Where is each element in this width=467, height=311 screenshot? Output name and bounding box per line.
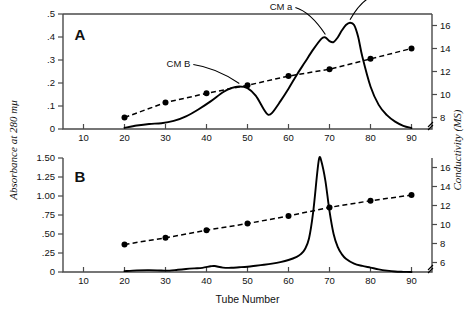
right-tick-label: 14 xyxy=(440,43,451,54)
right-axis-title: Conductivity (MS) xyxy=(451,109,464,190)
conductivity-marker xyxy=(122,241,128,247)
x-tick-label: 50 xyxy=(242,132,253,143)
conductivity-marker xyxy=(368,56,374,62)
x-axis-title: Tube Number xyxy=(216,293,280,305)
chromatography-figure: 0.1.2.3.4.5810121416102030405060708090AC… xyxy=(0,0,467,311)
conductivity-marker xyxy=(204,227,210,233)
x-tick-label: 40 xyxy=(201,275,212,286)
conductivity-marker xyxy=(286,213,292,219)
x-tick-label: 90 xyxy=(406,132,417,143)
x-tick-label: 80 xyxy=(365,275,376,286)
panel-letter: B xyxy=(75,168,86,185)
conductivity-marker xyxy=(163,235,169,241)
annotation-leader xyxy=(193,65,239,84)
conductivity-marker xyxy=(368,198,374,204)
left-tick-label: .3 xyxy=(47,54,55,65)
right-tick-label: 16 xyxy=(440,162,451,173)
annotation-leader xyxy=(350,0,372,20)
left-tick-label: .50 xyxy=(42,228,55,239)
left-tick-label: 1.50 xyxy=(37,152,56,163)
left-tick-label: 0 xyxy=(50,123,55,134)
panel-frame xyxy=(63,158,432,272)
x-tick-label: 70 xyxy=(324,132,335,143)
elution-profile-chart: 0.1.2.3.4.5810121416102030405060708090AC… xyxy=(0,0,467,311)
x-tick-label: 20 xyxy=(119,275,130,286)
conductivity-marker xyxy=(327,204,333,210)
x-tick-label: 90 xyxy=(406,275,417,286)
panel-letter: A xyxy=(75,26,86,43)
conductivity-marker xyxy=(409,192,415,198)
left-axis-title: Absorbance at 280 mμ xyxy=(7,100,19,201)
right-tick-label: 8 xyxy=(440,238,445,249)
conductivity-marker xyxy=(409,46,415,52)
x-tick-label: 80 xyxy=(365,132,376,143)
x-tick-label: 20 xyxy=(119,132,130,143)
conductivity-marker xyxy=(245,221,251,227)
right-tick-label: 12 xyxy=(440,200,451,211)
panel-frame xyxy=(63,14,432,129)
left-tick-label: .5 xyxy=(47,8,55,19)
right-tick-label: 10 xyxy=(440,219,451,230)
conductivity-marker xyxy=(286,73,292,79)
left-tick-label: .2 xyxy=(47,77,55,88)
x-tick-label: 60 xyxy=(283,132,294,143)
peak-label: CM a′ xyxy=(375,0,400,2)
x-tick-label: 30 xyxy=(160,275,171,286)
left-tick-label: 1.25 xyxy=(37,171,56,182)
left-tick-label: .75 xyxy=(42,209,55,220)
annotation-leader xyxy=(295,8,325,35)
conductivity-marker xyxy=(122,115,128,121)
panel-b: 0.25.50.751.001.251.50681012141610203040… xyxy=(37,152,451,286)
conductivity-marker xyxy=(327,66,333,72)
left-tick-label: 1.00 xyxy=(37,190,56,201)
x-tick-label: 70 xyxy=(324,275,335,286)
x-tick-label: 10 xyxy=(78,275,89,286)
right-tick-label: 16 xyxy=(440,20,451,31)
conductivity-marker xyxy=(204,90,210,96)
absorbance-curve xyxy=(125,157,412,272)
right-tick-label: 8 xyxy=(440,112,445,123)
right-tick-label: 14 xyxy=(440,181,451,192)
peak-label: CM a xyxy=(270,1,293,12)
x-tick-label: 40 xyxy=(201,132,212,143)
panel-a: 0.1.2.3.4.5810121416102030405060708090AC… xyxy=(47,0,451,143)
left-tick-label: 0 xyxy=(50,266,55,277)
x-tick-label: 30 xyxy=(160,132,171,143)
x-tick-label: 10 xyxy=(78,132,89,143)
x-tick-label: 60 xyxy=(283,275,294,286)
left-tick-label: .25 xyxy=(42,247,55,258)
left-tick-label: .4 xyxy=(47,31,55,42)
x-tick-label: 50 xyxy=(242,275,253,286)
peak-label: CM B xyxy=(167,58,191,69)
right-tick-label: 12 xyxy=(440,66,451,77)
right-tick-label: 10 xyxy=(440,89,451,100)
right-tick-label: 6 xyxy=(440,257,445,268)
left-tick-label: .1 xyxy=(47,100,55,111)
absorbance-curve xyxy=(125,23,412,128)
conductivity-marker xyxy=(245,82,251,88)
conductivity-marker xyxy=(163,100,169,106)
